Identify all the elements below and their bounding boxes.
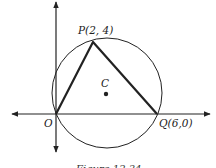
center-point-c xyxy=(104,92,108,96)
geometry-figure: P(2, 4) C O Q(6,0) Figure 12.34 xyxy=(0,0,216,168)
figure-caption: Figure 12.34 xyxy=(75,163,141,168)
label-p: P(2, 4) xyxy=(77,24,113,36)
label-q: Q(6,0) xyxy=(159,117,193,130)
label-o: O xyxy=(44,117,53,129)
label-c: C xyxy=(101,77,109,89)
